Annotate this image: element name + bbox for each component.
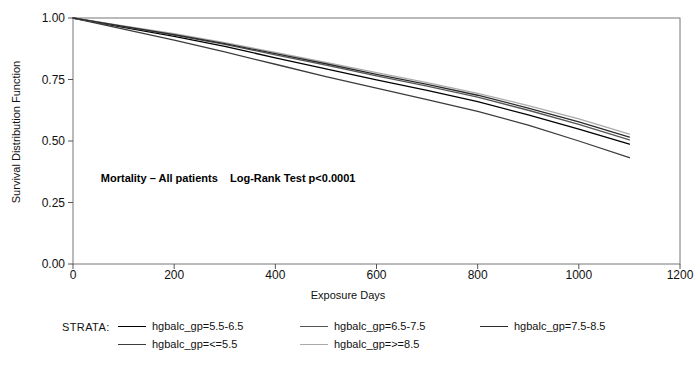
legend-line-swatch (300, 344, 328, 345)
survival-curve (73, 18, 629, 158)
annotation-text: Mortality – All patients Log-Rank Test p… (101, 172, 356, 184)
survival-curve (73, 18, 629, 134)
legend-item[interactable]: hgbalc_gp=>=8.5 (300, 338, 419, 350)
legend-line-swatch (300, 326, 328, 327)
legend: STRATA: hgbalc_gp=5.5-6.5hgbalc_gp=6.5-7… (0, 316, 696, 362)
legend-line-swatch (118, 344, 146, 345)
legend-item-label: hgbalc_gp=5.5-6.5 (152, 320, 243, 332)
legend-item-label: hgbalc_gp=>=8.5 (334, 338, 419, 350)
legend-line-swatch (118, 326, 146, 327)
legend-item[interactable]: hgbalc_gp=<=5.5 (118, 338, 237, 350)
legend-item-label: hgbalc_gp=6.5-7.5 (334, 320, 425, 332)
legend-title: STRATA: (62, 321, 110, 333)
legend-item[interactable]: hgbalc_gp=7.5-8.5 (480, 320, 605, 332)
x-axis-title: Exposure Days (0, 289, 696, 301)
legend-line-swatch (480, 326, 508, 327)
plot-frame (73, 18, 680, 264)
legend-item-label: hgbalc_gp=7.5-8.5 (514, 320, 605, 332)
legend-item[interactable]: hgbalc_gp=5.5-6.5 (118, 320, 243, 332)
legend-item[interactable]: hgbalc_gp=6.5-7.5 (300, 320, 425, 332)
legend-item-label: hgbalc_gp=<=5.5 (152, 338, 237, 350)
survival-chart: Survival Distribution Function 0.000.250… (0, 0, 696, 366)
plot-area (0, 0, 696, 300)
